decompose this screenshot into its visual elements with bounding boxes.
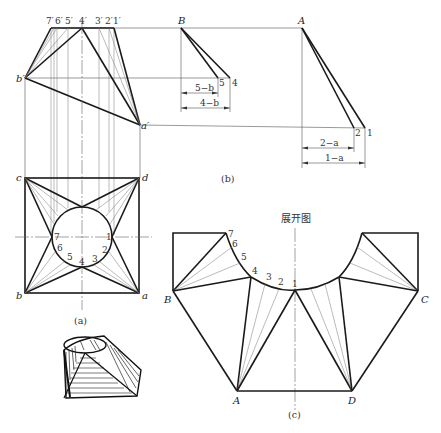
development-pattern: 展开图 7 6 5 4 3 2 1 B C A D (c) [163,213,429,420]
true-length-diagram: B 5 4 5−b 4−b A 2 1 2−a 1−a (b) [177,15,373,184]
vertex-C: C [421,294,429,305]
vertex-D: D [347,395,356,406]
vertex-B: B [163,294,171,305]
label-b: b [16,290,22,301]
dim-1a: 1−a [325,153,344,163]
vertex-A: A [232,395,240,406]
circle-pt-1: 1 [106,232,112,242]
label-c: c [16,172,22,183]
label-b-prime: b′ [16,73,25,84]
label-7p: 7′ [46,16,54,26]
circle-pt-3: 3 [92,254,98,264]
arc-pt-5: 5 [241,252,247,262]
top-view: c d b a 7 6 5 4 3 2 1 (a) [15,172,152,326]
arc-pt-4: 4 [252,266,258,276]
label-6p: 6′ [55,16,63,26]
label-d: d [142,172,148,183]
circle-pt-2: 2 [102,245,108,255]
dim-5b: 5−b [195,83,214,93]
arc-pt-7: 7 [228,229,234,239]
label-pt5: 5 [219,78,225,88]
label-a: a [142,290,148,301]
circle-pt-7: 7 [54,232,60,242]
label-5p: 5′ [65,16,73,26]
label-B-true: B [177,15,185,26]
label-a-prime: a′ [141,120,150,131]
isometric-sketch [64,336,141,398]
label-4p: 4′ [79,16,87,26]
arc-pt-2: 2 [278,277,284,287]
transition-piece-drawing: 7′ 6′ 5′ 4′ 3′ 2′ 1′ b′ a′ [0,0,441,433]
dim-4b: 4−b [200,98,219,108]
label-2p: 2′ [105,16,113,26]
circle-pt-5: 5 [67,252,73,262]
label-pt2: 2 [355,128,361,138]
label-A-true: A [297,15,305,26]
caption-a: (a) [74,315,87,326]
caption-b: (b) [221,173,235,184]
arc-pt-6: 6 [232,239,238,249]
circle-pt-4: 4 [79,257,85,267]
label-3p: 3′ [95,16,103,26]
development-title: 展开图 [281,213,311,224]
circle-pt-6: 6 [57,243,63,253]
arc-pt-3: 3 [266,272,272,282]
label-pt4: 4 [232,78,238,88]
arc-pt-1: 1 [292,279,298,289]
dim-2a: 2−a [320,138,339,148]
label-1p: 1′ [113,16,121,26]
caption-c: (c) [288,409,301,420]
label-pt1: 1 [367,128,373,138]
